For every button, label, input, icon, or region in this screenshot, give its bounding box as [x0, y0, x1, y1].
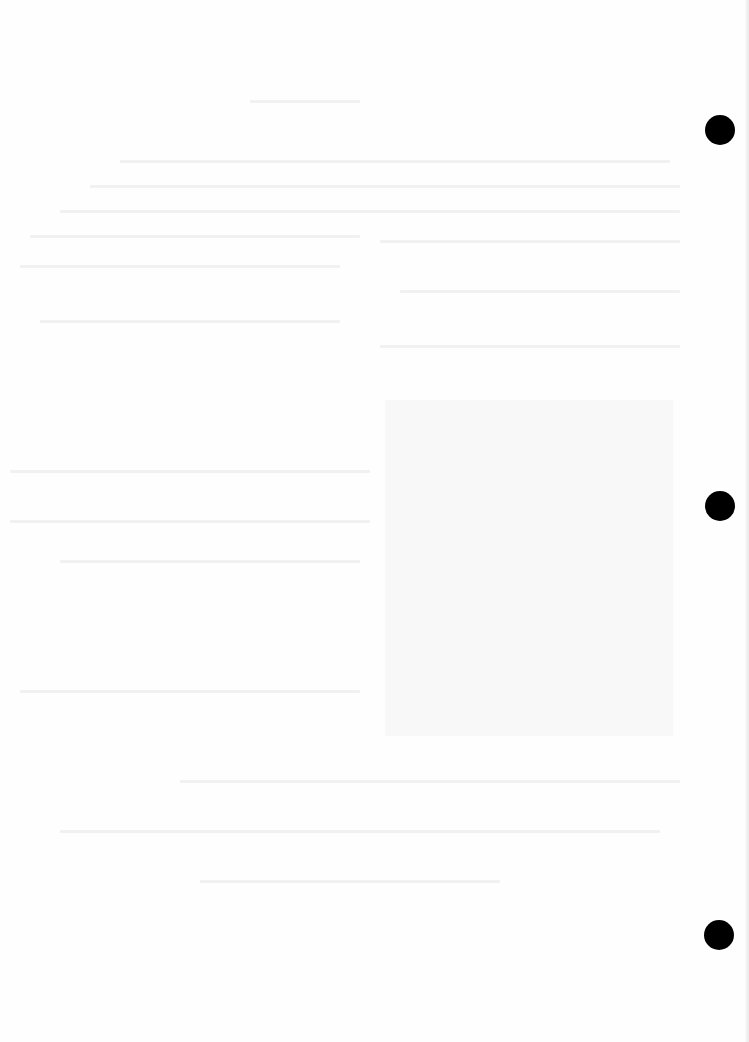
bleed-through-line	[60, 560, 360, 563]
bleed-through-line	[380, 240, 680, 243]
bleed-through-line	[60, 210, 680, 213]
page-edge	[745, 0, 749, 1042]
bleed-through-line	[60, 830, 660, 833]
bleed-through-line	[200, 880, 500, 883]
punch-hole-middle	[705, 491, 735, 521]
bleed-through-line	[380, 345, 680, 348]
bleed-through-line	[10, 470, 370, 473]
bleed-through-line	[40, 320, 340, 323]
bleed-through-line	[30, 235, 360, 238]
bleed-through-line	[20, 265, 340, 268]
bleed-through-line	[120, 160, 670, 163]
bleed-through-line	[250, 100, 360, 103]
bleed-through-line	[400, 290, 680, 293]
blank-page	[0, 0, 749, 1042]
bleed-through-line	[10, 520, 370, 523]
punch-hole-bottom	[704, 920, 734, 950]
bleed-through-line	[90, 185, 680, 188]
bleed-through-line	[20, 690, 360, 693]
shaded-region	[385, 400, 673, 736]
bleed-through-line	[180, 780, 680, 783]
punch-hole-top	[705, 115, 735, 145]
